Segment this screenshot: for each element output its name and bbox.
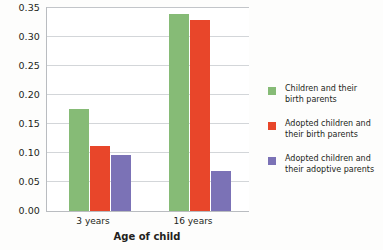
legend-label-children-birth-parents: Children and their birth parents <box>285 84 383 105</box>
plot-area <box>46 7 249 212</box>
legend-label-adopted-birth-parents: Adopted children and their birth parents <box>285 119 383 140</box>
legend-item-children-birth-parents: Children and their birth parents <box>268 84 383 108</box>
legend-item-adopted-birth-parents: Adopted children and their birth parents <box>268 119 383 143</box>
legend-label-line2: birth parents <box>285 95 383 106</box>
bar-16years-adopted-birth-parents <box>190 20 210 211</box>
legend-swatch-green-icon <box>268 87 276 95</box>
legend-label-line2: their birth parents <box>285 130 383 141</box>
gridline-025 <box>47 65 249 66</box>
legend-swatch-red-icon <box>268 122 276 130</box>
x-axis-title: Age of child <box>46 231 248 242</box>
legend-label-adopted-adoptive-parents: Adopted children and their adoptive pare… <box>285 154 383 175</box>
y-axis-tick-label: 0.35 <box>6 2 40 13</box>
y-axis-tick-label: 0.30 <box>6 31 40 42</box>
legend-label-line1: Children and their <box>285 84 357 93</box>
bar-3years-adopted-birth-parents <box>90 146 110 211</box>
bar-chart-figure: 0.35 0.30 0.25 0.20 0.15 0.10 0.05 0.00 … <box>0 0 383 250</box>
gridline-030 <box>47 36 249 37</box>
y-axis-tick-label: 0.00 <box>6 205 40 216</box>
y-axis-tick-label: 0.10 <box>6 147 40 158</box>
legend: Children and their birth parents Adopted… <box>268 84 383 189</box>
x-axis-tick-label-3years: 3 years <box>53 216 133 226</box>
bar-16years-adopted-adoptive-parents <box>211 171 231 211</box>
gridline-035 <box>47 7 249 8</box>
legend-label-line1: Adopted children and <box>285 154 371 163</box>
bar-3years-children-birth-parents <box>69 109 89 211</box>
gridline-020 <box>47 94 249 95</box>
legend-label-line1: Adopted children and <box>285 119 371 128</box>
y-axis-tick-label: 0.05 <box>6 176 40 187</box>
legend-swatch-purple-icon <box>268 157 276 165</box>
bar-3years-adopted-adoptive-parents <box>111 155 131 211</box>
y-axis-tick-label: 0.20 <box>6 89 40 100</box>
legend-label-line2: their adoptive parents <box>285 165 383 176</box>
legend-item-adopted-adoptive-parents: Adopted children and their adoptive pare… <box>268 154 383 178</box>
x-axis-tick-label-16years: 16 years <box>153 216 233 226</box>
bar-16years-children-birth-parents <box>169 14 189 211</box>
y-axis-tick-label: 0.15 <box>6 118 40 129</box>
y-axis-tick-label: 0.25 <box>6 60 40 71</box>
